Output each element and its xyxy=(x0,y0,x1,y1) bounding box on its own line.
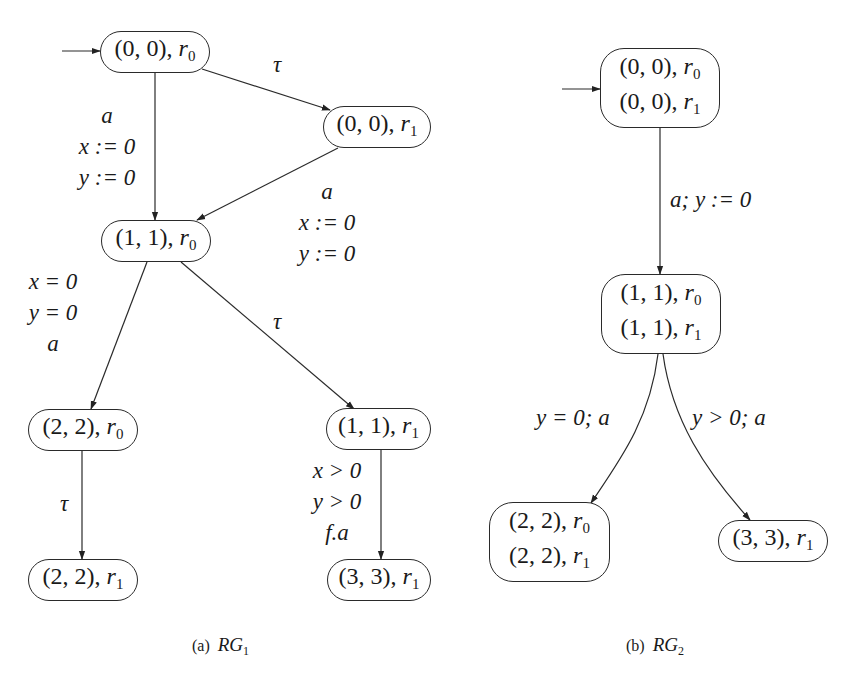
state-node-n22r1: (2, 2), r1 xyxy=(28,559,138,601)
caption-rg1: (a) RG1 xyxy=(192,634,249,659)
state-label: (1, 1), r1 xyxy=(621,314,702,349)
state-label: (2, 2), r1 xyxy=(509,542,590,577)
state-node-n00r1: (0, 0), r1 xyxy=(323,106,431,148)
state-node-n11r0: (1, 1), r0 xyxy=(101,220,211,262)
edge-label-m11-m33: y > 0; a xyxy=(692,402,792,433)
state-label: (1, 1), r1 xyxy=(338,412,419,447)
state-label: (0, 0), r1 xyxy=(620,88,701,123)
edge-label-n11r0-n11r1: τ xyxy=(262,306,292,337)
state-node-n22r0: (2, 2), r0 xyxy=(28,409,138,451)
caption-rg2: (b) RG2 xyxy=(626,634,684,659)
state-node-n33r1: (3, 3), r1 xyxy=(327,559,431,601)
edge-label-m11-m22: y = 0; a xyxy=(536,402,636,433)
state-label: (1, 1), r0 xyxy=(116,224,197,259)
edge-label-m00-m11: a; y := 0 xyxy=(670,184,774,215)
edge-label-n00r0-n11r0: a x := 0 y := 0 xyxy=(62,100,152,193)
state-label: (3, 3), r1 xyxy=(733,524,814,559)
state-label: (2, 2), r0 xyxy=(509,507,590,542)
state-label: (0, 0), r0 xyxy=(115,35,196,70)
state-node-n00r0: (0, 0), r0 xyxy=(100,31,210,73)
state-node-m33: (3, 3), r1 xyxy=(718,520,828,562)
state-node-m22: (2, 2), r0 (2, 2), r1 xyxy=(489,502,610,582)
edge-label-n00r0-n00r1: τ xyxy=(262,49,292,80)
edge-n11r0-n22r0 xyxy=(91,262,147,409)
state-label: (2, 2), r1 xyxy=(43,563,124,598)
state-label: (0, 0), r0 xyxy=(620,53,701,88)
state-label: (1, 1), r0 xyxy=(621,279,702,314)
edge-label-n11r1-n33r1: x > 0 y > 0 f.a xyxy=(302,455,372,548)
state-node-n11r1: (1, 1), r1 xyxy=(326,408,431,450)
edge-label-n00r1-n11r0: a x := 0 y := 0 xyxy=(282,176,372,269)
state-node-m00: (0, 0), r0 (0, 0), r1 xyxy=(600,48,720,128)
state-label: (0, 0), r1 xyxy=(337,110,418,145)
state-label: (2, 2), r0 xyxy=(43,413,124,448)
edge-label-n22r0-n22r1: τ xyxy=(52,488,76,519)
state-label: (3, 3), r1 xyxy=(339,563,420,598)
state-node-m11: (1, 1), r0 (1, 1), r1 xyxy=(601,274,721,354)
edge-m11-m33 xyxy=(663,354,750,520)
edge-label-n11r0-n22r0: x = 0 y = 0 a xyxy=(20,266,86,359)
